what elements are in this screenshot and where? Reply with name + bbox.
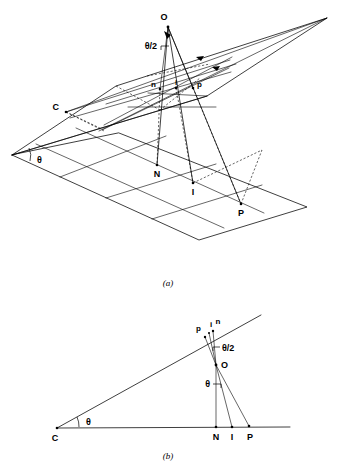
base-line-b <box>57 427 290 428</box>
projection-n-N <box>157 89 160 165</box>
projection-i-I <box>176 88 193 183</box>
label-p-b: p <box>196 324 201 333</box>
label-O-a: O <box>160 12 167 22</box>
point-dot-i-b <box>208 332 210 334</box>
caption-a: (a) <box>163 278 174 288</box>
line-C-to-upper <box>66 60 230 112</box>
upper-plane-long-rule <box>99 18 327 131</box>
label-n-a: n <box>151 80 156 89</box>
label-i-a: i <box>175 78 177 87</box>
point-dot-I-a <box>192 182 195 185</box>
label-theta-half-a: θ/2 <box>145 41 157 51</box>
lower-plane <box>12 128 307 240</box>
point-dot-N-b <box>215 426 218 429</box>
upper-plane-long-rule-3 <box>104 68 229 129</box>
ray-O-to-I <box>168 27 193 183</box>
label-i-b: i <box>210 320 212 329</box>
label-O-b: O <box>221 360 228 370</box>
line-C-to-far-corner <box>66 18 327 112</box>
label-theta-C-b: θ <box>86 417 91 427</box>
panel-a: O θ/2 C n i p θ N I P (a) <box>12 12 327 288</box>
point-dot-n-b <box>212 330 214 332</box>
label-C-a: C <box>53 102 60 112</box>
point-dot-I-b <box>231 426 234 429</box>
segment-O-n-b <box>213 331 216 365</box>
lower-plane-rule-b <box>76 128 264 213</box>
lower-plane-rule-a <box>36 144 224 228</box>
label-theta-half-b: θ/2 <box>222 343 234 353</box>
label-p-a: p <box>197 80 202 89</box>
ray-O-to-p <box>168 27 193 88</box>
label-N-b: N <box>213 432 220 442</box>
label-N-a: N <box>154 169 161 179</box>
panel-b: p i n θ/2 O θ C θ N I P (b) <box>52 315 290 461</box>
point-dot-P-a <box>240 203 243 206</box>
dashed-line-P-right <box>241 150 262 204</box>
segment-O-I-b <box>216 365 232 427</box>
label-C-b: C <box>52 433 59 443</box>
label-I-a: I <box>192 187 195 197</box>
point-dot-i-a <box>175 87 177 89</box>
point-dot-p-b <box>204 336 206 338</box>
segment-O-P-b <box>216 365 249 426</box>
lower-plane-grid-line-2 <box>106 164 216 198</box>
lines-from-C <box>66 18 327 131</box>
label-n-b: n <box>216 317 221 326</box>
point-dot-C-a <box>65 111 68 114</box>
lower-plane-outline <box>12 133 307 240</box>
arrowhead-1 <box>196 56 204 61</box>
label-P-b: P <box>247 432 253 442</box>
inclined-line-b <box>57 315 261 428</box>
geometry-diagram-svg: O θ/2 C n i p θ N I P (a) <box>0 0 337 470</box>
point-dot-C-b <box>56 427 59 430</box>
point-dot-p-a <box>192 87 195 90</box>
lower-plane-grid-line-3 <box>152 185 262 219</box>
segment-O-i-b <box>209 333 216 365</box>
label-I-b: I <box>231 432 234 442</box>
caption-b: (b) <box>163 451 174 461</box>
label-theta-a: θ <box>37 155 42 165</box>
label-P-a: P <box>238 208 244 218</box>
point-dot-N-a <box>156 164 159 167</box>
point-dot-n-a <box>159 88 162 91</box>
point-dot-O-a <box>167 26 170 29</box>
label-theta-O-b: θ <box>205 379 210 389</box>
point-dot-O-b <box>215 364 218 367</box>
figure-container: O θ/2 C n i p θ N I P (a) <box>0 0 337 470</box>
angle-theta-arc-C-b <box>77 417 79 427</box>
point-dot-P-b <box>248 425 251 428</box>
line-C-dashed <box>66 112 104 131</box>
upper-plane-hidden-3 <box>66 112 104 130</box>
